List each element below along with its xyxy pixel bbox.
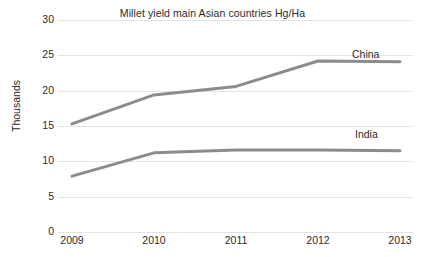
y-tick-label: 5 bbox=[20, 190, 54, 202]
chart-container: Millet yield main Asian countries Hg/Ha … bbox=[0, 0, 425, 257]
y-tick-label: 15 bbox=[20, 119, 54, 131]
line-series-india bbox=[72, 150, 400, 176]
y-tick-label: 10 bbox=[20, 154, 54, 166]
x-axis-tick-labels: 20092010201120122013 bbox=[58, 234, 413, 252]
y-tick-label: 30 bbox=[20, 13, 54, 25]
x-tick-label: 2009 bbox=[44, 234, 100, 246]
y-tick-label: 20 bbox=[20, 84, 54, 96]
line-series-china bbox=[72, 61, 400, 124]
y-axis-tick-labels: 051015202530 bbox=[16, 20, 54, 232]
x-tick-label: 2011 bbox=[208, 234, 264, 246]
x-tick-label: 2012 bbox=[290, 234, 346, 246]
y-tick-label: 25 bbox=[20, 48, 54, 60]
x-tick-label: 2010 bbox=[126, 234, 182, 246]
x-tick-label: 2013 bbox=[372, 234, 425, 246]
gridline bbox=[58, 232, 413, 233]
series-label-china: China bbox=[352, 48, 379, 60]
chart-title: Millet yield main Asian countries Hg/Ha bbox=[0, 7, 425, 19]
series-label-india: India bbox=[355, 128, 378, 140]
